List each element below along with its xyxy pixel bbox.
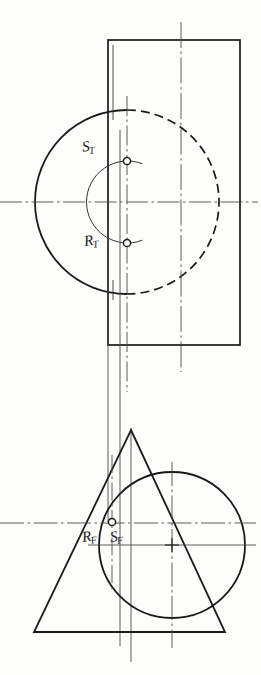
label-point-st: ST: [81, 137, 96, 155]
point-marker-rt: [123, 239, 130, 246]
label-st-subscript: T: [88, 144, 95, 156]
engineering-drawing-canvas: [0, 0, 261, 675]
point-marker-st: [123, 157, 130, 164]
label-rt-subscript: T: [92, 238, 99, 250]
front-view-triangle: [34, 430, 225, 632]
top-view-rectangle: [108, 40, 240, 345]
front-view-group: [0, 430, 256, 648]
drawing-page: ST RT RF SF: [0, 0, 261, 675]
label-point-sf: SF: [109, 527, 125, 545]
point-marker-rf-sf: [108, 518, 115, 525]
label-sf-subscript: F: [116, 534, 124, 546]
label-point-rt: RT: [83, 231, 100, 249]
label-rf-subscript: F: [90, 534, 98, 546]
top-view-group: [0, 22, 258, 392]
label-point-rf: RF: [81, 527, 98, 545]
